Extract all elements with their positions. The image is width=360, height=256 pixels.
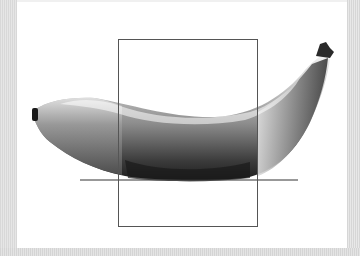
image-frame xyxy=(0,0,360,256)
banana-scene xyxy=(0,0,360,256)
banana-stem xyxy=(316,42,334,58)
blossom-end xyxy=(32,108,38,121)
banana xyxy=(32,42,334,181)
